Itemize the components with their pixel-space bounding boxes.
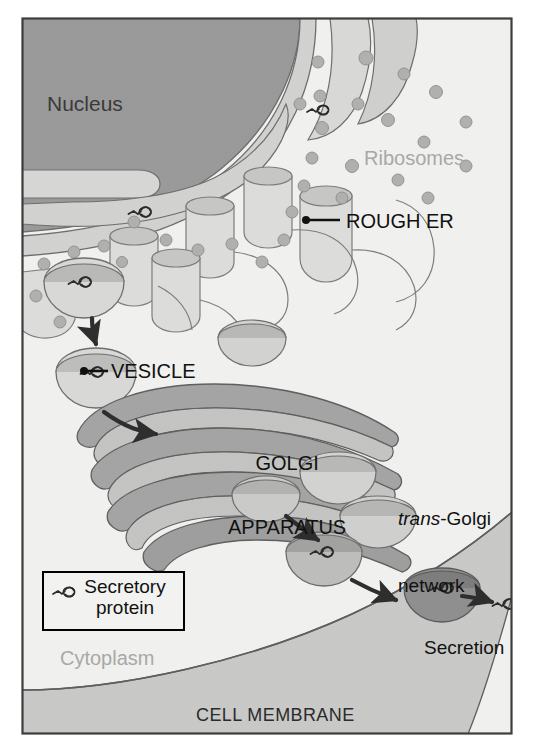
label-rough-er: ROUGH ER bbox=[346, 211, 454, 232]
label-ribosomes: Ribosomes bbox=[364, 148, 464, 169]
label-cytoplasm: Cytoplasm bbox=[60, 648, 154, 669]
label-cell-membrane: CELL MEMBRANE bbox=[196, 706, 355, 725]
label-nucleus: Nucleus bbox=[47, 93, 123, 115]
legend-label: Secretory protein bbox=[70, 577, 180, 618]
legend-line2: protein bbox=[70, 598, 180, 619]
label-tgn-italic: trans bbox=[398, 508, 440, 529]
label-golgi-line2: APPARATUS bbox=[228, 517, 346, 538]
label-vesicle: VESICLE bbox=[111, 361, 195, 382]
label-trans-golgi-network: trans-Golgi network bbox=[398, 463, 491, 642]
label-golgi-line1: GOLGI bbox=[228, 453, 346, 474]
leader-dot-rough-er bbox=[302, 216, 310, 224]
leader-dot-vesicle bbox=[80, 367, 88, 375]
label-golgi-apparatus: GOLGI APPARATUS bbox=[228, 411, 346, 581]
label-tgn-line1: trans-Golgi bbox=[398, 508, 491, 530]
label-tgn-line2: network bbox=[398, 575, 491, 597]
label-secretion: Secretion bbox=[424, 638, 504, 658]
label-tgn-rest: -Golgi bbox=[440, 508, 491, 529]
legend-line1: Secretory bbox=[70, 577, 180, 598]
figure-canvas: Nucleus Ribosomes ROUGH ER VESICLE GOLGI… bbox=[0, 0, 534, 752]
